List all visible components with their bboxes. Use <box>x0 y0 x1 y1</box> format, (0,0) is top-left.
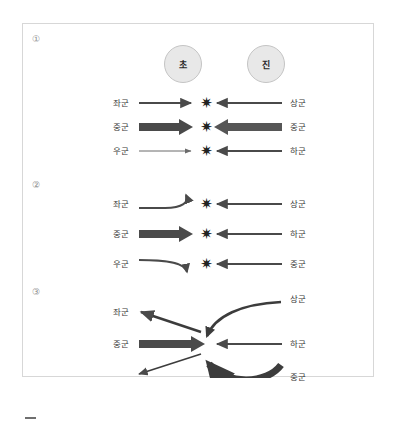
s2-row1-right-label: 상군 <box>290 199 306 210</box>
clash-starburst-icon: ✷ <box>200 258 213 271</box>
s1-row3-left-label: 우군 <box>113 146 129 157</box>
clash-starburst-icon: ✷ <box>200 145 213 158</box>
s3-row2-right-label: 하군 <box>290 339 306 350</box>
s1-row2-left-arrow <box>139 119 193 135</box>
s3-row3-left-arrow <box>139 354 201 374</box>
s1-row1-left-label: 좌군 <box>113 98 129 109</box>
clash-starburst-icon: ✷ <box>200 198 213 211</box>
s2-row3-left-arrow <box>139 260 187 272</box>
s1-row2-right-arrow <box>214 119 282 135</box>
diagram-frame: ① ② ③ 초 진 좌군 상군 중군 중군 우군 하군 좌군 상군 중군 하군 … <box>22 23 374 377</box>
s3-row1-left-arrow <box>141 312 201 332</box>
s3-row3-right-label: 중군 <box>290 372 306 383</box>
s3-row1-left-label: 좌군 <box>113 307 129 318</box>
s1-row3-right-label: 하군 <box>290 146 306 157</box>
s2-row3-right-label: 중군 <box>290 259 306 270</box>
s3-row2-left-arrow <box>139 336 205 352</box>
s1-row2-left-label: 중군 <box>113 122 129 133</box>
s3-row3-right-arrow <box>209 364 281 378</box>
s3-row2-left-label: 중군 <box>113 339 129 350</box>
clash-starburst-icon: ✷ <box>200 97 213 110</box>
s2-row1-left-arrow <box>139 195 187 208</box>
section-index-3: ③ <box>30 286 42 298</box>
page-dash-mark <box>25 417 36 419</box>
circle-jin-label: 진 <box>262 58 270 71</box>
s2-row2-left-arrow <box>139 226 193 242</box>
clash-starburst-icon: ✷ <box>200 121 213 134</box>
arrow-layer <box>23 24 375 378</box>
s1-row1-right-label: 상군 <box>290 98 306 109</box>
s2-row1-left-label: 좌군 <box>113 199 129 210</box>
section-index-1: ① <box>30 33 42 45</box>
s2-row2-left-label: 중군 <box>113 229 129 240</box>
s3-row1-right-label: 상군 <box>290 294 306 305</box>
section-index-2: ② <box>30 179 42 191</box>
circle-jin: 진 <box>247 45 285 83</box>
s2-row2-right-label: 하군 <box>290 229 306 240</box>
s2-row3-left-label: 우군 <box>113 259 129 270</box>
circle-cho-label: 초 <box>179 58 187 71</box>
circle-cho: 초 <box>164 45 202 83</box>
s1-row2-right-label: 중군 <box>290 122 306 133</box>
clash-starburst-icon: ✷ <box>200 228 213 241</box>
s3-row1-right-arrow <box>207 302 281 336</box>
